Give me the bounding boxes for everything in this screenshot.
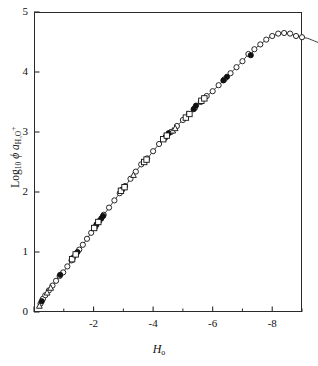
data-point-open-circle [106, 205, 111, 210]
data-point-square [91, 225, 96, 230]
data-point-filled-circle [100, 213, 105, 218]
data-point-open-circle [240, 59, 245, 64]
data-point-open-circle [282, 30, 287, 35]
data-point-filled-circle [224, 74, 229, 79]
x-tick-label-neg2: -2 [82, 317, 106, 329]
data-point-open-circle [65, 264, 70, 269]
data-point-square [122, 185, 127, 190]
chart-canvas [0, 0, 318, 366]
data-point-filled-circle [58, 272, 63, 277]
phi-symbol: ϕ [9, 153, 21, 159]
data-point-open-circle [151, 149, 156, 154]
axis-ticks [34, 12, 302, 312]
x-axis-title-sub: o [161, 348, 165, 357]
data-point-open-circle [299, 35, 304, 40]
y-tick-label-1: 1 [10, 245, 28, 257]
x-tick-label-neg6: -6 [201, 317, 225, 329]
data-point-filled-circle [193, 103, 198, 108]
x-axis-title: Ho [0, 342, 318, 357]
y-axis-title-log: Log [9, 169, 21, 188]
data-point-open-circle [216, 83, 221, 88]
data-point-open-circle [53, 278, 58, 283]
data-point-open-circle [293, 33, 298, 38]
data-point-open-circle [80, 242, 85, 247]
y-axis-title-log-sub: 10 [14, 162, 23, 170]
data-point-open-circle [258, 42, 263, 47]
data-point-square [187, 111, 192, 116]
data-point-square [73, 252, 78, 257]
data-point-open-circle [210, 89, 215, 94]
fitted-curve [39, 33, 318, 306]
data-point-open-circle [276, 31, 281, 36]
figure-root: 012345-2-4-6-8 Log10 ϕ aH₃O+ Ho [0, 0, 318, 366]
data-point-square [144, 157, 149, 162]
y-tick-label-4: 4 [10, 65, 28, 77]
data-point-open-circle [112, 198, 117, 203]
data-point-open-circle [234, 65, 239, 70]
data-point-open-circle [287, 31, 292, 36]
data-markers [36, 30, 304, 308]
activity-superscript: + [9, 127, 18, 131]
data-point-square [96, 219, 101, 224]
data-point-filled-circle [248, 53, 253, 58]
y-tick-label-5: 5 [10, 5, 28, 17]
x-tick-label-neg8: -8 [260, 317, 284, 329]
y-tick-label-0: 0 [10, 305, 28, 317]
y-axis-title: Log10 ϕ aH₃O+ [9, 97, 23, 217]
data-point-open-circle [270, 33, 275, 38]
data-point-open-circle [84, 236, 89, 241]
data-point-open-circle [252, 47, 257, 52]
x-tick-label-neg4: -4 [141, 317, 165, 329]
activity-symbol: a [9, 144, 21, 150]
activity-subscript: H₃O [14, 131, 23, 144]
data-point-square [164, 133, 169, 138]
data-point-open-circle [264, 37, 269, 42]
data-point-square [202, 96, 207, 101]
